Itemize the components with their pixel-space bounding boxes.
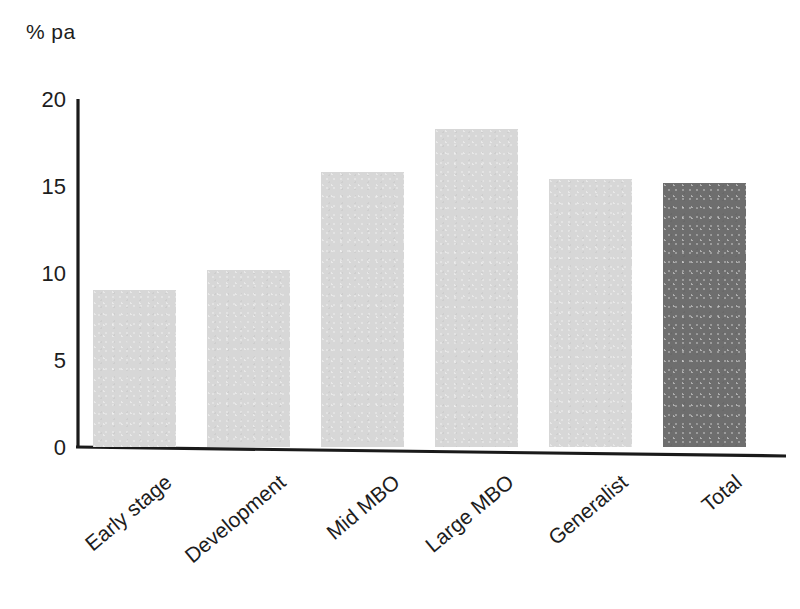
x-label-large-mbo: Large MBO: [420, 470, 518, 557]
x-label-early-stage: Early stage: [80, 470, 176, 556]
x-axis-labels: Early stage Development Mid MBO Large MB…: [0, 0, 800, 609]
x-label-total: Total: [697, 470, 746, 517]
x-label-mid-mbo: Mid MBO: [321, 470, 403, 545]
x-label-development: Development: [180, 470, 290, 568]
x-label-generalist: Generalist: [543, 470, 632, 550]
bar-chart: % pa 20 15 10 5 0 Early stage Developmen…: [0, 0, 800, 609]
